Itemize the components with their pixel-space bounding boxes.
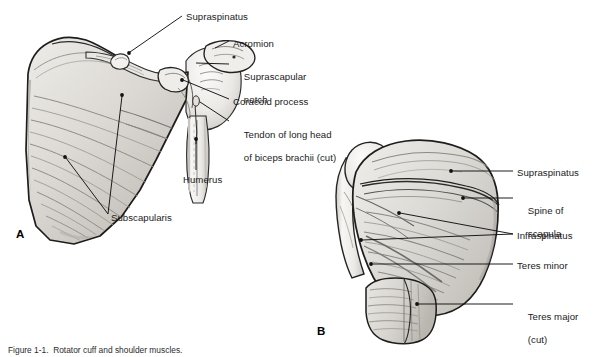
label-supraspinatus-a: Supraspinatus [186, 11, 248, 22]
label-tendon-biceps-brachii: Tendon of long head of biceps brachii (c… [233, 118, 336, 175]
label-suprascapular-notch: Suprascapular notch [233, 60, 306, 117]
label-tendon-biceps-line2: of biceps brachii (cut) [244, 152, 336, 163]
label-suprascapular-notch-line1: Suprascapular [244, 71, 307, 82]
label-subscapularis: Subscapularis [111, 212, 172, 223]
label-teres-minor: Teres minor [517, 260, 568, 271]
label-spine-of-scapula-line1: Spine of [528, 205, 564, 216]
label-acromion: Acromion [233, 38, 274, 49]
panel-letter-a: A [16, 228, 25, 240]
label-humerus: Humerus [183, 174, 222, 185]
teres-major-cut [366, 278, 436, 344]
label-teres-major-line2: (cut) [528, 334, 547, 345]
label-coracoid-process: Coracoid process [233, 96, 308, 107]
label-teres-major-line1: Teres major [528, 311, 579, 322]
label-supraspinatus-b: Supraspinatus [517, 167, 579, 178]
label-infraspinatus: Infraspinatus [517, 230, 573, 241]
panel-letter-b: B [317, 325, 326, 337]
figure-caption: Figure 1-1. Rotator cuff and shoulder mu… [8, 345, 594, 355]
label-spine-of-scapula: Spine of scapula [517, 194, 563, 251]
label-tendon-biceps-line1: Tendon of long head [244, 129, 332, 140]
